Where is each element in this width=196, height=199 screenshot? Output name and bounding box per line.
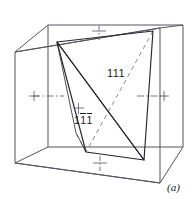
digit-3-overbar: 1 (87, 114, 93, 126)
plane-label-111: 111 (107, 67, 125, 79)
plane-1bar1bar1bar-triangle (57, 42, 144, 160)
cube-edge-bottom-front (15, 163, 160, 183)
plane-hidden-edges (76, 31, 153, 152)
cube-outline (15, 25, 183, 183)
figure-container: 111 111 (a) (0, 0, 196, 199)
plane-111-hidden-edge (86, 31, 153, 152)
axis-bottom (93, 156, 107, 171)
cube-plane-diagram (0, 0, 196, 199)
cube-bottom-face (15, 147, 183, 183)
cube-edge-top-front (15, 28, 160, 52)
plane-1bar1bar1bar-edge-base (76, 133, 86, 152)
plane-1bar1bar1bar-outline (57, 42, 144, 160)
figure-caption: (a) (167, 181, 180, 193)
axis-left (29, 91, 64, 101)
axis-right (137, 91, 169, 101)
plane-label-1bar1bar1bar: 111 (74, 114, 93, 126)
